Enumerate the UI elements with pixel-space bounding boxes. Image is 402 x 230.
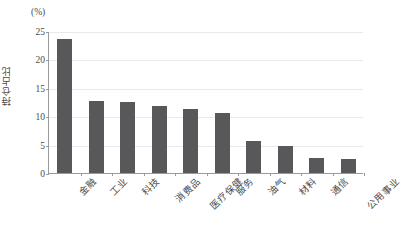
x-axis-category-label: 材料: [297, 176, 319, 198]
y-axis-tick-label: 5: [40, 141, 45, 151]
y-axis-tick-label: 0: [40, 169, 45, 179]
bar: [57, 39, 72, 173]
y-axis-tick-label: 10: [36, 112, 46, 122]
y-axis-tick-label: 25: [36, 27, 46, 37]
y-axis-tick-label: 20: [36, 55, 46, 65]
bar: [309, 158, 324, 173]
x-axis-category-label: 油气: [266, 176, 288, 198]
bar: [183, 109, 198, 173]
x-axis-category-label: 金融: [77, 176, 99, 198]
x-axis-category-label: 科技: [140, 176, 162, 198]
bars-layer: [49, 32, 363, 173]
bar: [341, 159, 356, 173]
x-axis-category-label: 消费品: [174, 176, 203, 205]
bar: [89, 101, 104, 173]
y-axis-tick-label: 15: [36, 84, 46, 94]
x-axis-category-label: 工业: [108, 176, 130, 198]
bar: [152, 106, 167, 173]
plot-area: 0510152025: [48, 32, 363, 174]
x-axis-category-label: 通信: [329, 176, 351, 198]
bar: [278, 146, 293, 173]
x-axis-tick-mark: [364, 173, 365, 176]
bar: [246, 141, 261, 173]
y-axis-title: 持仓占比: [2, 66, 18, 106]
y-axis-tick-mark: [46, 174, 49, 175]
x-axis-category-label: 公用事业: [366, 176, 402, 212]
bar: [120, 102, 135, 173]
bar: [215, 113, 230, 173]
y-axis-unit-label: (%): [31, 7, 45, 18]
x-axis-labels: 金融工业科技消费品医疗保健服务油气材料通信公用事业: [48, 176, 363, 230]
